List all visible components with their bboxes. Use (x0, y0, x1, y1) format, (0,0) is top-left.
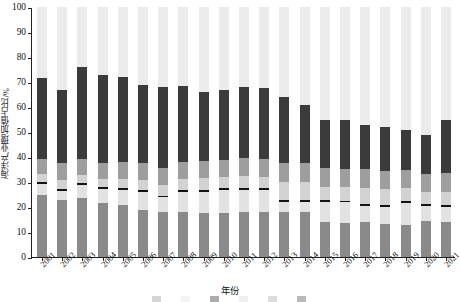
bar-segment (360, 206, 370, 223)
y-tick-label: 10 (17, 227, 26, 237)
bar-segment (239, 158, 249, 176)
bar-segment (279, 163, 289, 182)
bar-segment (178, 86, 188, 162)
bar-segment (37, 174, 47, 182)
bar-segment (178, 192, 188, 212)
bar-stack (421, 7, 431, 257)
bar-segment (401, 170, 411, 188)
bar-segment (421, 221, 431, 258)
bar-segment (380, 207, 390, 224)
plot-area: 0102030405060708090100 (31, 8, 455, 258)
bar-segment (401, 225, 411, 257)
bar-stack (37, 7, 47, 257)
bar-segment (219, 188, 229, 190)
bar-group (32, 8, 455, 257)
bar-segment (320, 222, 330, 257)
bar-segment (199, 190, 209, 192)
bar-segment (259, 159, 269, 177)
y-tick-label: 0 (21, 252, 26, 262)
bar-segment (138, 85, 148, 164)
bar-segment (37, 195, 47, 257)
bar-segment (178, 7, 188, 86)
bar-segment (360, 169, 370, 188)
bar-segment (118, 190, 128, 206)
bar-segment (259, 177, 269, 189)
bar-segment (118, 188, 128, 190)
bar-segment (320, 187, 330, 200)
bar-segment (199, 161, 209, 178)
y-tick-mark (28, 233, 32, 234)
x-axis-title: 年份 (0, 283, 460, 297)
bar-segment (279, 7, 289, 97)
bar-segment (441, 7, 451, 120)
bar-segment (279, 200, 289, 202)
bar-stack (98, 7, 108, 257)
y-tick-mark (28, 33, 32, 34)
bar-segment (199, 7, 209, 92)
bar-segment (199, 92, 209, 161)
bar-segment (158, 196, 168, 198)
y-tick-mark (28, 133, 32, 134)
bar-segment (118, 77, 128, 162)
bar-segment (259, 212, 269, 258)
y-tick-label: 40 (17, 152, 26, 162)
bar-segment (219, 7, 229, 90)
bar-segment (178, 179, 188, 190)
y-tick-label: 30 (17, 177, 26, 187)
y-tick-label: 70 (17, 77, 26, 87)
bar-segment (98, 179, 108, 187)
bar-segment (138, 190, 148, 192)
bar-segment (421, 204, 431, 206)
bar-segment (380, 127, 390, 171)
legend-swatch (152, 296, 161, 302)
bar-segment (259, 88, 269, 159)
bar-segment (98, 203, 108, 257)
y-tick-label: 100 (12, 2, 26, 12)
bar-stack (380, 7, 390, 257)
bar-stack (279, 7, 289, 257)
bar-segment (360, 188, 370, 205)
bar-segment (300, 202, 310, 212)
bar-segment (37, 184, 47, 196)
bar-segment (279, 202, 289, 212)
bar-segment (138, 7, 148, 85)
bar-segment (57, 200, 67, 257)
bar-segment (57, 180, 67, 189)
bar-stack (320, 7, 330, 257)
bar-stack (178, 7, 188, 257)
bar-segment (158, 197, 168, 212)
bar-segment (158, 87, 168, 168)
bar-segment (300, 163, 310, 182)
bar-segment (239, 190, 249, 213)
bar-segment (401, 188, 411, 201)
y-tick-mark (28, 8, 32, 9)
bar-segment (320, 202, 330, 223)
bar-segment (57, 90, 67, 164)
bar-stack (300, 7, 310, 257)
bar-segment (77, 67, 87, 159)
bar-segment (441, 173, 451, 192)
bar-segment (259, 7, 269, 88)
legend-item (239, 296, 251, 302)
bar-segment (259, 188, 269, 190)
bar-segment (239, 188, 249, 190)
bar-segment (279, 182, 289, 201)
bar-segment (199, 213, 209, 257)
bar-segment (57, 189, 67, 191)
legend-swatch (297, 296, 306, 302)
bar-segment (259, 190, 269, 212)
bar-segment (401, 7, 411, 130)
bar-segment (421, 7, 431, 135)
bar-segment (360, 222, 370, 257)
legend-swatch (181, 296, 190, 302)
bar-segment (98, 7, 108, 75)
bar-segment (158, 7, 168, 87)
x-axis-tick-labels: 2001200220032004200520062007200820092010… (31, 258, 455, 284)
bar-segment (320, 168, 330, 187)
bar-segment (239, 7, 249, 87)
bar-segment (138, 180, 148, 190)
bar-segment (279, 212, 289, 257)
bar-segment (98, 75, 108, 164)
bar-segment (98, 187, 108, 189)
bar-segment (300, 7, 310, 105)
